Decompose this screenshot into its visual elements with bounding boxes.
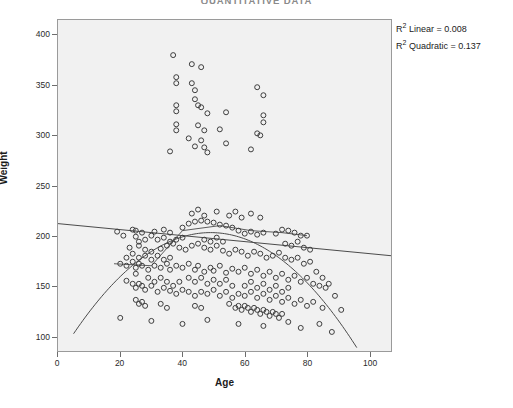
data-point (192, 293, 197, 298)
data-point (186, 136, 191, 141)
data-point (196, 263, 201, 268)
data-point (217, 222, 222, 227)
data-point (130, 227, 135, 232)
data-point (199, 289, 204, 294)
scatter-plot-figure: QUANTITATIVE DATA Weight 400350300250200… (0, 0, 513, 408)
y-tick-label: 200 (16, 231, 50, 241)
data-point (255, 85, 260, 90)
data-point (286, 295, 291, 300)
data-point (301, 261, 306, 266)
data-point (242, 265, 247, 270)
data-point (171, 53, 176, 58)
data-point (202, 269, 207, 274)
data-point (224, 270, 229, 275)
data-point (199, 275, 204, 280)
data-point (192, 97, 197, 102)
data-point (283, 255, 288, 260)
data-point (211, 220, 216, 225)
data-point (199, 65, 204, 70)
data-point (227, 213, 232, 218)
x-tick-label: 60 (225, 358, 265, 368)
data-point (261, 281, 266, 286)
y-tick-label: 150 (16, 281, 50, 291)
y-tick: 150 (14, 281, 50, 291)
quadratic-fit-curve (74, 233, 357, 348)
plot-area (57, 19, 392, 352)
x-tick: 80 (287, 358, 327, 370)
x-tick: 60 (225, 358, 265, 370)
data-point (298, 279, 303, 284)
data-point (155, 237, 160, 242)
data-point (224, 110, 229, 115)
data-point (208, 265, 213, 270)
data-point (124, 278, 129, 283)
x-tick-label: 20 (100, 358, 140, 368)
data-point (233, 247, 238, 252)
data-point (208, 247, 213, 252)
data-point (158, 265, 163, 270)
data-point (236, 321, 241, 326)
data-point (127, 245, 132, 250)
data-point (267, 287, 272, 292)
data-point (189, 62, 194, 67)
data-point (196, 207, 201, 212)
x-tick: 20 (100, 358, 140, 370)
data-point (164, 279, 169, 284)
x-axis-label: Age (57, 377, 392, 388)
data-point (149, 318, 154, 323)
r2-quadratic-annotation: R2 Quadratic = 0.137 (396, 36, 512, 53)
data-points-group (115, 53, 344, 335)
data-point (311, 299, 316, 304)
data-point (149, 233, 154, 238)
data-point (174, 81, 179, 86)
data-point (248, 229, 253, 234)
data-point (292, 273, 297, 278)
data-point (248, 289, 253, 294)
data-point (143, 287, 148, 292)
data-point (133, 271, 138, 276)
x-tick-mark (57, 352, 58, 357)
data-point (168, 267, 173, 272)
data-point (143, 247, 148, 252)
data-point (286, 319, 291, 324)
y-tick-label: 100 (16, 332, 50, 342)
data-point (298, 297, 303, 302)
data-point (261, 120, 266, 125)
data-point (242, 283, 247, 288)
data-point (311, 281, 316, 286)
data-point (227, 251, 232, 256)
x-tick-label: 0 (37, 358, 77, 368)
data-point (183, 247, 188, 252)
data-point (174, 291, 179, 296)
r2-linear-annotation: R2 Linear = 0.008 (396, 19, 512, 36)
data-point (276, 250, 281, 255)
data-point (186, 275, 191, 280)
data-point (248, 147, 253, 152)
data-point (261, 113, 266, 118)
data-point (317, 283, 322, 288)
data-point (233, 209, 238, 214)
data-point (320, 275, 325, 280)
data-point (115, 229, 120, 234)
data-point (205, 219, 210, 224)
data-point (317, 321, 322, 326)
data-point (177, 245, 182, 250)
data-point (130, 251, 135, 256)
data-point (298, 325, 303, 330)
data-point (121, 233, 126, 238)
data-point (280, 227, 285, 232)
data-point (133, 234, 138, 239)
data-point (255, 285, 260, 290)
data-point (158, 301, 163, 306)
data-point (186, 261, 191, 266)
data-point (308, 259, 313, 264)
data-point (224, 223, 229, 228)
data-point (196, 241, 201, 246)
data-point (146, 267, 151, 272)
data-point (227, 301, 232, 306)
data-point (236, 269, 241, 274)
x-tick: 40 (162, 358, 202, 370)
data-point (205, 281, 210, 286)
y-tick-label: 300 (16, 130, 50, 140)
data-point (220, 248, 225, 253)
